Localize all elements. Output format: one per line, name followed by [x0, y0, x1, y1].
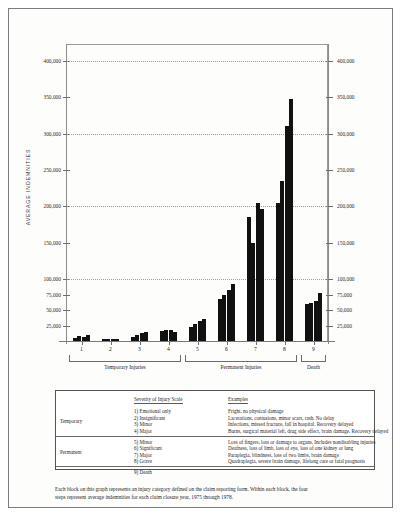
severity-scale-table: Severity of Injury Scale Examples Tempor…	[55, 390, 375, 470]
x-axis-category-label: 5	[190, 346, 206, 352]
category-bracket-label: Temporary Injuries	[69, 364, 181, 370]
column-header-severity: Severity of Injury Scale	[134, 396, 183, 404]
category-bracket	[69, 355, 181, 362]
x-axis-category-label: 2	[103, 346, 119, 352]
severity-example-item: Deafness, loss of limb, loss of eye, los…	[228, 445, 353, 451]
severity-example-item: Infections, missed fracture, fall in hos…	[228, 421, 353, 427]
x-axis-category-label: 8	[277, 346, 293, 352]
bar	[115, 339, 119, 341]
bar	[86, 335, 90, 341]
x-tick-mark	[314, 342, 315, 345]
category-bracket-label: Death	[301, 364, 326, 370]
x-axis-category-label: 9	[306, 346, 322, 352]
bar	[231, 284, 235, 341]
severity-scale-item: 8) Grave	[134, 458, 152, 464]
caption-line-2: steps represent average indemnities for …	[55, 493, 377, 501]
x-tick-mark	[285, 342, 286, 345]
severity-example-item: Fright, no physical damage	[228, 408, 283, 414]
caption-line-1: Each block on this graph represents an i…	[55, 485, 377, 493]
severity-group-label: Temporary	[60, 418, 82, 424]
page-frame: AVERAGE INDEMNITIES 25,00025,00050,00050…	[8, 8, 393, 508]
severity-example-item: Paraplegia, blindness, loss of two limbs…	[228, 452, 339, 458]
x-axis-category-label: 7	[248, 346, 264, 352]
x-axis-category-label: 1	[74, 346, 90, 352]
table-row-divider	[56, 466, 374, 467]
severity-scale-item: 7) Major	[134, 452, 152, 458]
bar	[144, 332, 148, 341]
category-bracket-label: Permanent Injuries	[185, 364, 297, 370]
x-tick-mark	[169, 342, 170, 345]
table-row-divider	[56, 436, 374, 437]
bar	[289, 99, 293, 341]
category-bracket	[301, 355, 326, 362]
severity-scale-item: 1) Emotional only	[134, 408, 171, 414]
x-tick-mark	[140, 342, 141, 345]
severity-example-item: Loss of fingers, loss or damage to organ…	[228, 439, 376, 445]
severity-scale-item: 2) Insignificant	[134, 415, 165, 421]
bars-layer	[9, 9, 394, 374]
x-tick-mark	[256, 342, 257, 345]
severity-example-item: Quadraplegia, severe brain damage, lifel…	[228, 458, 365, 464]
severity-scale-table-inner: Severity of Injury Scale Examples Tempor…	[56, 391, 374, 469]
chart-region: AVERAGE INDEMNITIES 25,00025,00050,00050…	[9, 9, 394, 374]
severity-example-item: Lacerations, contusions, minor scars, ra…	[228, 415, 334, 421]
bar	[202, 319, 206, 341]
x-tick-mark	[198, 342, 199, 345]
bar	[173, 332, 177, 341]
bar	[318, 293, 322, 341]
severity-scale-item: 3) Minor	[134, 421, 152, 427]
severity-scale-item: 6) Significant	[134, 445, 162, 451]
severity-scale-item: 5) Minor	[134, 439, 152, 445]
severity-scale-item: 4) Major	[134, 428, 152, 434]
severity-scale-item: 9) Death	[134, 469, 152, 475]
x-tick-mark	[82, 342, 83, 345]
x-axis-category-label: 3	[132, 346, 148, 352]
category-bracket	[185, 355, 297, 362]
x-axis-category-label: 4	[161, 346, 177, 352]
x-tick-mark	[111, 342, 112, 345]
figure-caption: Each block on this graph represents an i…	[55, 485, 377, 501]
bar	[260, 209, 264, 341]
severity-example-item: Burns, surgical material left, drug side…	[228, 428, 388, 434]
x-tick-mark	[227, 342, 228, 345]
x-axis-category-label: 6	[219, 346, 235, 352]
column-header-examples: Examples	[228, 396, 248, 404]
severity-group-label: Permanent	[60, 449, 82, 455]
